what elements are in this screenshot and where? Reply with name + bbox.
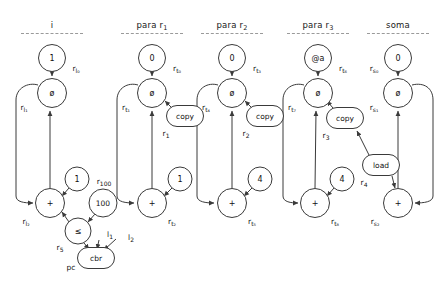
node-const-100: 100	[89, 189, 118, 218]
edge-const1-to-plus-rt2	[164, 188, 172, 196]
node-phi-rt1: ø	[137, 78, 167, 108]
label-subscript: 100	[100, 180, 111, 187]
label-rl2: rl₂	[22, 217, 29, 226]
label-rl0: rl₀	[72, 64, 79, 73]
label-subscript: t₆	[342, 67, 347, 74]
node-const-4-rt8: 4	[330, 167, 355, 192]
label-subscript: t₁	[125, 106, 130, 113]
label-base: pc	[67, 263, 76, 272]
node-const-at-a: @a	[304, 44, 332, 72]
label-subscript: s₁	[373, 106, 379, 113]
node-copy-r1: copy	[166, 105, 204, 127]
column-header-label: i	[51, 20, 54, 30]
label-subscript: 4	[364, 181, 368, 188]
label-r4: r4	[361, 178, 368, 187]
column-divider-col-para-r3	[287, 33, 349, 34]
node-phi-rs1: ø	[383, 78, 413, 108]
node-phi-rl1: ø	[37, 78, 67, 108]
label-rs1: rs₁	[370, 103, 379, 112]
label-subscript: 1	[166, 132, 170, 139]
label-r5: r5	[57, 243, 64, 252]
column-header-subscript: 2	[243, 24, 247, 32]
column-header-label: para r	[302, 20, 329, 30]
label-subscript: t₅	[251, 220, 256, 227]
column-header-label: para r	[216, 20, 243, 30]
label-subscript: 3	[326, 134, 330, 141]
label-subscript: 1	[109, 233, 113, 240]
edge-const4-to-plus-rt5	[244, 188, 252, 196]
node-plus-rt2: +	[137, 188, 167, 218]
label-r100: r100	[97, 177, 112, 186]
label-subscript: 2	[130, 236, 134, 243]
node-const-0-rt0: 0	[138, 44, 166, 72]
edge-plus-to-phi-rt7	[315, 111, 316, 188]
edge-load-to-copy-r3	[357, 131, 369, 155]
label-rt1: rt₁	[122, 103, 130, 112]
column-header-col-soma: soma	[386, 20, 410, 30]
column-header-subscript: 1	[163, 24, 167, 32]
label-l2: l2	[128, 233, 134, 242]
edge-const100-to-le	[88, 214, 95, 222]
column-divider-col-para-r2	[201, 33, 263, 34]
column-header-col-i: i	[51, 20, 54, 30]
node-phi-rt7: ø	[303, 78, 333, 108]
column-divider-col-soma	[367, 33, 429, 34]
node-plus-rt8: +	[300, 188, 330, 218]
label-subscript: t₄	[205, 106, 210, 113]
node-const-1-rt2: 1	[168, 167, 193, 192]
node-const-1-incr: 1	[65, 167, 90, 192]
edge-phi-rs1-loopback-to-plus	[412, 84, 433, 203]
label-rt6: rt₆	[339, 64, 347, 73]
label-subscript: t₀	[176, 67, 181, 74]
node-cbr: cbr	[77, 247, 115, 269]
column-header-subscript: 3	[329, 24, 333, 32]
node-plus-rs2: +	[383, 188, 413, 218]
label-subscript: l₁	[24, 106, 28, 113]
label-subscript: l₀	[76, 67, 80, 74]
label-rt3: rt₃	[253, 64, 261, 73]
node-copy-r2: copy	[246, 105, 284, 127]
label-rs2: rs₂	[371, 217, 380, 226]
label-subscript: t₈	[334, 220, 339, 227]
label-subscript: l₂	[26, 220, 30, 227]
label-subscript: t₂	[171, 220, 176, 227]
node-plus-rt5: +	[217, 188, 247, 218]
label-rt8: rt₈	[331, 217, 339, 226]
diagram-canvas: ipara r1para r2para r3soma 1ø+1100≤cbr0ø…	[0, 0, 443, 283]
label-subscript: 5	[60, 246, 64, 253]
column-divider-col-i	[21, 33, 83, 34]
column-header-label: soma	[386, 20, 410, 30]
label-subscript: t₃	[256, 67, 261, 74]
label-l1: l1	[107, 230, 113, 239]
column-header-col-para-r3: para r3	[302, 20, 333, 30]
node-compare-le: ≤	[65, 218, 92, 245]
node-const-0-rt3: 0	[218, 44, 246, 72]
edge-layer	[0, 0, 443, 283]
label-pc: pc	[67, 263, 76, 272]
label-subscript: s₀	[373, 67, 379, 74]
node-phi-rt4: ø	[217, 78, 247, 108]
label-rt4: rt₄	[202, 103, 210, 112]
label-subscript: t₇	[291, 106, 296, 113]
column-divider-col-para-r1	[121, 33, 183, 34]
column-header-label: para r	[136, 20, 163, 30]
label-rt0: rt₀	[173, 64, 181, 73]
label-rt7: rt₇	[288, 103, 296, 112]
node-copy-r3: copy	[326, 107, 364, 129]
node-plus-rl2: +	[35, 188, 65, 218]
edge-load-to-plus-rs2	[392, 176, 395, 188]
column-header-col-para-r1: para r1	[136, 20, 167, 30]
label-rt5: rt₅	[248, 217, 256, 226]
node-load-r4: load	[362, 154, 400, 176]
label-subscript: 2	[246, 132, 250, 139]
label-rs0: rs₀	[370, 64, 379, 73]
column-header-col-para-r2: para r2	[216, 20, 247, 30]
label-r3: r3	[323, 131, 330, 140]
label-r2: r2	[243, 129, 250, 138]
node-const-1: 1	[38, 44, 66, 72]
label-r1: r1	[163, 129, 170, 138]
label-subscript: s₂	[374, 220, 380, 227]
label-rt2: rt₂	[168, 217, 176, 226]
label-rl1: rl₁	[20, 103, 27, 112]
node-const-0-rs0: 0	[384, 44, 412, 72]
